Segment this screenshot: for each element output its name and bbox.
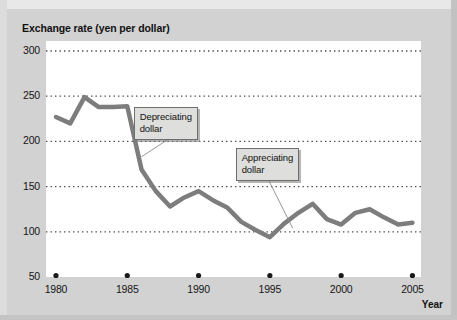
series-line-exchange-rate [56,97,412,237]
x-tick-dot [410,273,415,278]
x-axis-tick-label: 1995 [244,283,296,295]
x-axis-tick-label: 1985 [101,283,153,295]
data-series-line [56,97,412,237]
x-axis-tick-label: 2000 [315,283,367,295]
x-tick-dot [339,273,344,278]
x-axis-tick-label: 1990 [173,283,225,295]
x-tick-dot [125,273,130,278]
chart-figure: Exchange rate (yen per dollar) 300250200… [0,0,457,320]
x-axis-title: Year [422,299,443,310]
annotation-appreciating-dollar: Appreciating dollar [236,148,300,181]
gridlines [46,51,421,232]
x-axis-tick-markers [53,273,415,278]
y-axis-tick-label: 50 [0,270,40,282]
chart-canvas [0,0,457,320]
annotation-appreciating-line1: Appreciating [242,152,294,164]
annotation-leader-line [142,140,167,157]
y-axis-tick-label: 100 [0,225,40,237]
x-axis-tick-label: 2005 [386,283,438,295]
x-tick-dot [267,273,272,278]
y-axis-tick-label: 300 [0,44,40,56]
x-axis-tick-label: 1980 [30,283,82,295]
x-tick-dot [53,273,58,278]
y-axis-tick-label: 150 [0,180,40,192]
annotation-depreciating-line2: dollar [140,123,192,135]
annotation-appreciating-line2: dollar [242,164,294,176]
x-tick-dot [196,273,201,278]
annotation-depreciating-dollar: Depreciating dollar [134,107,198,140]
y-axis-tick-label: 250 [0,89,40,101]
annotation-leader-line [269,181,293,228]
annotation-depreciating-line1: Depreciating [140,111,192,123]
y-axis-tick-label: 200 [0,134,40,146]
